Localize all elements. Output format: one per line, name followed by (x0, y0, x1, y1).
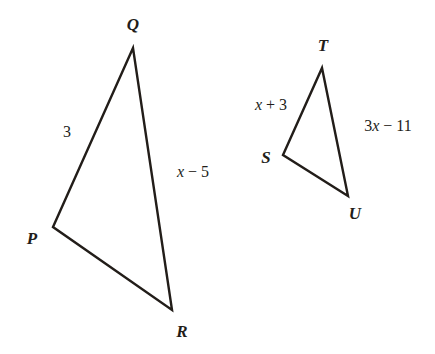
side-st-operator: + (262, 96, 279, 113)
side-pq-prefix: 3 (63, 123, 71, 140)
triangle-stu-outline (283, 68, 348, 196)
side-label-st: x + 3 (255, 97, 287, 113)
side-label-pq: 3 (63, 124, 71, 140)
vertex-label-s: S (261, 149, 270, 166)
side-label-qr: x − 5 (177, 164, 209, 180)
side-tu-operator: − (379, 117, 396, 134)
vertex-label-p: P (27, 230, 37, 247)
triangles-canvas (0, 0, 435, 354)
vertex-label-r: R (176, 323, 187, 340)
side-qr-constant: 5 (201, 163, 209, 180)
side-tu-prefix: 3 (364, 117, 372, 134)
side-label-tu: 3x − 11 (364, 118, 412, 134)
triangle-pqr-outline (53, 48, 172, 310)
vertex-label-q: Q (127, 16, 139, 33)
side-tu-constant: 11 (396, 117, 411, 134)
geometry-figure: P Q R 3 x − 5 S T U x + 3 3x − 11 (0, 0, 435, 354)
side-st-constant: 3 (279, 96, 287, 113)
vertex-label-u: U (349, 205, 361, 222)
vertex-label-t: T (318, 37, 328, 54)
side-qr-operator: − (184, 163, 201, 180)
